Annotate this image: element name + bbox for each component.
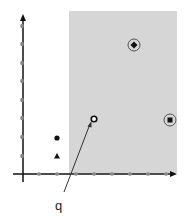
x-tick — [37, 172, 42, 176]
x-tick — [146, 172, 151, 176]
x-tick — [92, 172, 97, 176]
y-tick — [20, 42, 24, 47]
y-tick — [20, 98, 24, 103]
x-tick — [128, 172, 133, 176]
x-tick — [74, 172, 79, 176]
shaded-region — [69, 11, 177, 173]
y-tick — [20, 154, 24, 159]
y-tick — [20, 135, 24, 140]
y-tick — [20, 24, 24, 29]
square-icon — [168, 118, 173, 123]
x-tick — [110, 172, 115, 176]
y-tick — [20, 61, 24, 66]
triangle-point — [54, 153, 60, 159]
label-q: q — [55, 198, 62, 213]
dot-point — [54, 135, 59, 140]
diagram-canvas: q — [0, 0, 185, 222]
y-tick — [20, 79, 24, 84]
point-q — [91, 116, 97, 122]
x-tick — [55, 172, 60, 176]
y-tick — [20, 116, 24, 121]
x-tick — [164, 172, 169, 176]
y-axis-arrow-icon — [20, 14, 26, 21]
